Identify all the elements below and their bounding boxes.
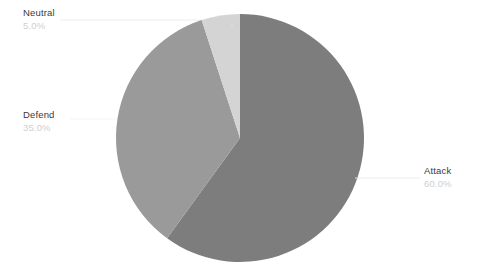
pie-slices-group [116,14,364,262]
slice-label-neutral: Neutral 5.0% [23,8,55,31]
label-anchor-dot-neutral [231,24,233,26]
label-anchor-dot-attack [355,177,357,179]
slice-percent-neutral: 5.0% [23,21,55,32]
slice-label-attack: Attack 60.0% [424,166,452,189]
slice-label-defend: Defend 35.0% [23,110,55,133]
pie-chart-canvas [0,0,479,280]
pie-chart-figure: Neutral 5.0% Defend 35.0% Attack 60.0% [0,0,479,280]
slice-percent-defend: 35.0% [23,123,55,134]
slice-percent-attack: 60.0% [424,179,452,190]
slice-category-attack: Attack [424,166,452,177]
slice-category-neutral: Neutral [23,8,55,19]
slice-category-defend: Defend [23,110,55,121]
